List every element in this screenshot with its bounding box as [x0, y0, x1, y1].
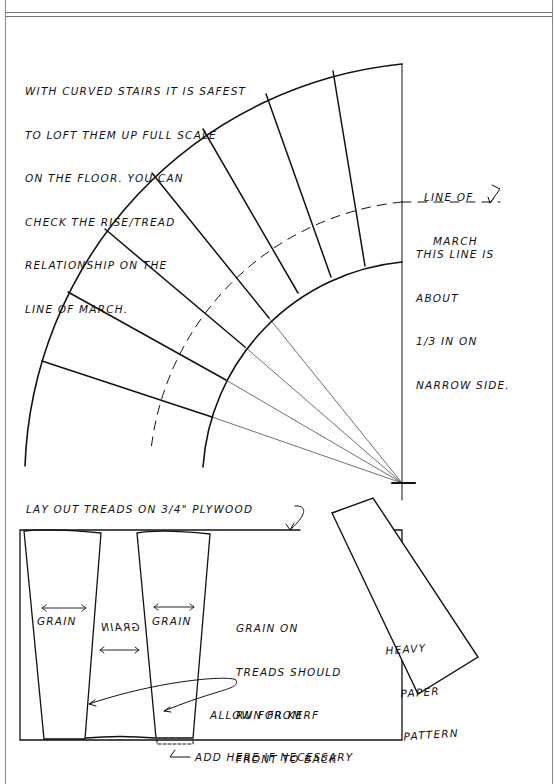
kerf-note: Allow for kerf: [210, 708, 319, 723]
grain-label: GRAIN: [152, 614, 192, 629]
layout-treads-note: Lay out treads on 3/4" plywood: [26, 502, 253, 517]
grain-label: GRAIN: [37, 614, 77, 629]
curved-stairs-note: With curved stairs it is safest to loft …: [25, 55, 246, 331]
add-here-note: Add here if necessary: [195, 750, 353, 765]
grain-label-mirrored: GRAIN: [100, 620, 140, 635]
line-of-march-note: This line is about 1/3 in on narrow side…: [416, 218, 510, 407]
pattern-label: Heavy paper pattern: [383, 610, 460, 759]
